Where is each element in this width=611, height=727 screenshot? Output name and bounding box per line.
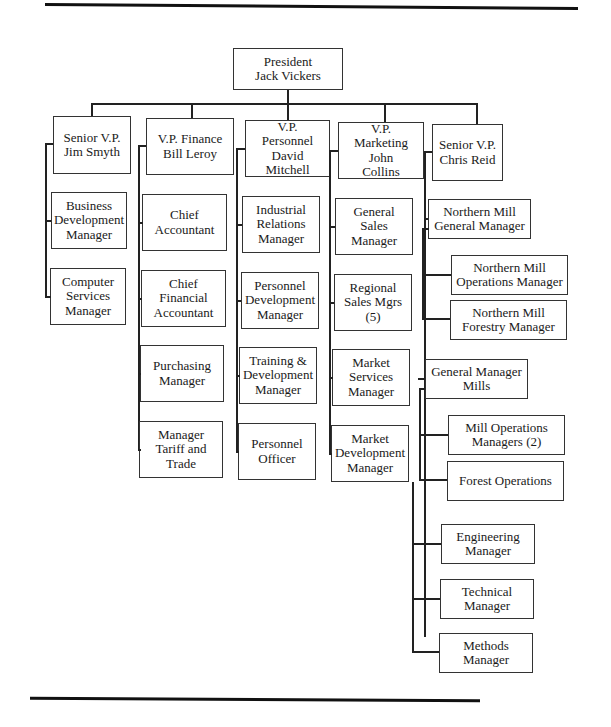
- box-senior-vp-chris-reid: Senior V.P. Chris Reid: [432, 124, 503, 181]
- connector: [329, 453, 332, 455]
- box-northern-mill-forestry-manager: Northern Mill Forestry Manager: [450, 300, 567, 340]
- connector: [419, 434, 448, 436]
- box-personnel-officer: Personnel Officer: [238, 423, 316, 480]
- box-vp-personnel-david-mitchell: V.P. Personnel David Mitchell: [245, 120, 330, 177]
- box-market-development-manager: Market Development Manager: [331, 425, 409, 482]
- box-forest-operations: Forest Operations: [447, 461, 564, 501]
- connector: [412, 482, 414, 653]
- connector: [138, 373, 141, 375]
- connector: [384, 105, 386, 122]
- box-market-services-manager: Market Services Manager: [332, 349, 410, 406]
- connector: [91, 103, 93, 117]
- box-vp-finance-bill-leroy: V.P. Finance Bill Leroy: [146, 118, 234, 175]
- connector: [422, 318, 450, 320]
- connector: [138, 298, 142, 300]
- box-computer-services-manager: Computer Services Manager: [50, 268, 126, 325]
- connector: [138, 222, 143, 224]
- connector: [91, 103, 478, 105]
- connector: [476, 105, 478, 124]
- box-personnel-development-manager: Personnel Development Manager: [241, 272, 319, 329]
- connector: [138, 449, 141, 451]
- connector: [45, 220, 51, 222]
- connector: [418, 378, 425, 380]
- box-chief-accountant: Chief Accountant: [142, 194, 227, 251]
- box-regional-sales-mgrs: Regional Sales Mgrs (5): [334, 274, 412, 331]
- box-methods-manager: Methods Manager: [439, 633, 533, 673]
- box-mill-operations-managers: Mill Operations Managers (2): [448, 415, 565, 455]
- connector: [412, 651, 439, 653]
- box-northern-mill-general-manager: Northern Mill General Manager: [428, 199, 531, 239]
- connector: [236, 300, 241, 302]
- box-purchasing-manager: Purchasing Manager: [140, 345, 224, 402]
- connector: [191, 103, 193, 118]
- bottom-rule: [30, 697, 480, 702]
- connector: [419, 479, 447, 481]
- box-president: President Jack Vickers: [233, 48, 343, 90]
- box-technical-manager: Technical Manager: [440, 579, 534, 619]
- box-general-manager-mills: General Manager Mills: [425, 359, 528, 399]
- connector: [45, 296, 51, 298]
- box-training-development-manager: Training & Development Manager: [239, 347, 317, 404]
- box-business-development-manager: Business Development Manager: [51, 192, 127, 249]
- box-general-sales-manager: General Sales Manager: [335, 198, 413, 255]
- connector: [329, 302, 334, 304]
- connector: [422, 274, 451, 276]
- box-chief-financial-accountant: Chief Financial Accountant: [141, 270, 226, 327]
- box-northern-mill-operations-manager: Northern Mill Operations Manager: [451, 255, 568, 295]
- box-vp-marketing-john-collins: V.P. Marketing John Collins: [338, 122, 424, 179]
- connector: [413, 598, 440, 600]
- connector: [236, 451, 239, 453]
- connector: [236, 224, 242, 226]
- box-manager-tariff-and-trade: Manager Tariff and Trade: [139, 421, 223, 478]
- top-rule: [45, 3, 578, 10]
- box-engineering-manager: Engineering Manager: [441, 524, 535, 564]
- box-senior-vp-jim-smyth: Senior V.P. Jim Smyth: [53, 116, 131, 174]
- connector: [236, 375, 240, 377]
- box-industrial-relations-manager: Industrial Relations Manager: [242, 196, 320, 253]
- connector: [329, 377, 333, 379]
- connector: [424, 218, 428, 220]
- connector: [287, 103, 289, 120]
- connector: [329, 226, 335, 228]
- connector: [414, 543, 441, 545]
